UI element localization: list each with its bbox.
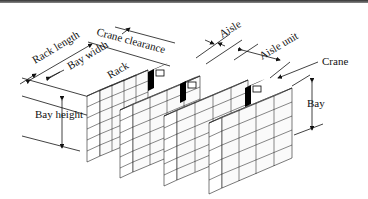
- label-rack: Rack: [105, 59, 131, 81]
- label-crane-clearance: Crane clearance: [95, 25, 166, 55]
- label-crane: Crane: [322, 55, 348, 67]
- label-aisle: Aisle: [217, 17, 243, 39]
- asrs-diagram: Rack length Bay width Crane clearance Ra…: [0, 0, 368, 199]
- label-aisle-unit: Aisle unit: [257, 29, 300, 61]
- label-bay: Bay: [307, 97, 325, 109]
- label-bay-height: Bay height: [35, 108, 83, 120]
- crane-1: [148, 63, 168, 91]
